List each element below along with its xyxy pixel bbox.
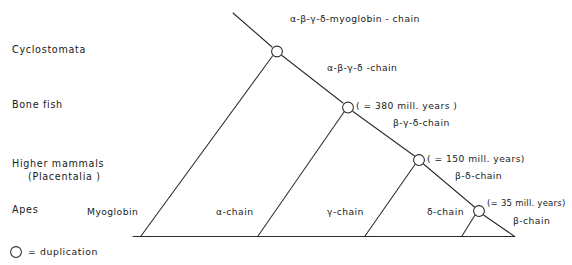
- branch-gamma-chain: [365, 165, 415, 237]
- duplication-circle-node-1: [272, 46, 283, 57]
- duplication-circle-node-2: [343, 102, 354, 113]
- taxon-label-placentalia: (Placentalia ): [28, 171, 101, 182]
- taxon-label-bone-fish: Bone fish: [12, 99, 63, 110]
- branch-alpha-chain: [258, 112, 344, 236]
- branch-beta-chain: [484, 215, 515, 236]
- duplication-circle-node-3: [414, 155, 425, 166]
- phylogenetic-tree-figure: Cyclostomata Bone fish Higher mammals (P…: [0, 0, 572, 265]
- taxon-label-higher-mammals: Higher mammals: [12, 158, 104, 169]
- legend-duplication-circle: [11, 247, 22, 258]
- branch-delta-chain: [462, 215, 475, 236]
- stem-root: [233, 13, 272, 47]
- legend-label: = duplication: [28, 246, 98, 257]
- taxon-label-apes: Apes: [12, 204, 38, 215]
- duplication-circle-node-4: [474, 206, 485, 217]
- leaf-label-delta-chain: δ-chain: [427, 206, 464, 217]
- leaf-label-alpha-chain: α-chain: [216, 206, 253, 217]
- leaf-label-myoglobin: Myoglobin: [87, 206, 138, 217]
- leaf-label-gamma-chain: γ-chain: [327, 206, 364, 217]
- tree-lines: [0, 0, 572, 265]
- node-3-chain-label: β-γ-δ-chain: [393, 117, 450, 128]
- node-3-age-label: ( = 150 mill. years): [427, 153, 525, 164]
- taxon-label-cyclostomata: Cyclostomata: [12, 44, 86, 55]
- node-2-age-label: ( = 380 mill. years ): [356, 100, 457, 111]
- node-2-chain-label: α-β-γ-δ -chain: [327, 62, 397, 73]
- node-4-chain-label: β-δ-chain: [455, 170, 502, 181]
- node-1-chain-label: α-β-γ-δ-myoglobin - chain: [290, 13, 420, 24]
- leaf-label-beta-chain: β-chain: [513, 215, 550, 226]
- node-4-age-label: (= 35 mill. years): [487, 198, 566, 208]
